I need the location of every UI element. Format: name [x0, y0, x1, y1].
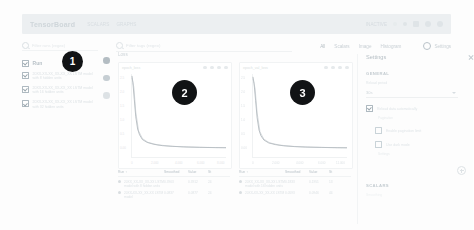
- run-checkbox[interactable]: [22, 100, 29, 107]
- pagination-label: Pagination: [378, 116, 474, 120]
- tab-histogram[interactable]: Histogram: [380, 44, 401, 49]
- x-tick-label: 2.000: [272, 161, 280, 165]
- header-tabs: SCALARS GRAPHS: [87, 22, 136, 27]
- reload-period-value: 30s: [366, 90, 372, 95]
- dark-mode-checkbox[interactable]: [375, 141, 382, 148]
- add-icon-bar-v: [461, 169, 462, 173]
- run-checkbox[interactable]: [22, 72, 29, 79]
- runs-icon[interactable]: [103, 57, 110, 64]
- settings-section-scalars: SCALARS: [366, 183, 474, 188]
- settings-header: Settings: [366, 54, 474, 60]
- x-tick-label: 0: [252, 161, 254, 165]
- account-icon[interactable]: [437, 21, 443, 27]
- column-header-run[interactable]: Run ↑: [118, 170, 164, 174]
- y-tick-label: 2.5: [241, 76, 245, 80]
- close-icon[interactable]: [468, 54, 474, 60]
- settings-title: Settings: [366, 54, 386, 60]
- more-icon[interactable]: [224, 66, 228, 70]
- tags-icon[interactable]: [103, 75, 110, 82]
- series-color-swatch: [239, 180, 242, 183]
- column-header-step[interactable]: St: [329, 170, 343, 174]
- chart-card-epoch-val-loss: epoch_val_loss 2.5 2.0 1.5 1.0 0.5 0.00 …: [239, 62, 353, 169]
- run-checkbox[interactable]: [22, 86, 29, 93]
- x-tick-label: 4.000: [175, 161, 183, 165]
- header-inactive-label: INACTIVE: [366, 22, 387, 27]
- caret-down-icon[interactable]: [393, 22, 397, 26]
- reload-auto-label: Reload data automatically: [377, 107, 417, 111]
- table-row[interactable]: 20XX-XX-XX_XX-XX LSTM model 0.0837 0.087…: [118, 188, 230, 199]
- pin-icon[interactable]: [210, 66, 214, 70]
- table-cell-run: 20XX_XX-XX_XX-XX LSTM model with 16 hidd…: [239, 180, 285, 188]
- x-axis: [131, 157, 226, 158]
- header-tab-graphs[interactable]: GRAPHS: [116, 22, 136, 27]
- charts-section-title: Loss: [118, 52, 351, 57]
- reload-period-select[interactable]: 30s: [366, 88, 458, 98]
- table-cell-run-label: 20XX_XX-XX_XX-XX LSTM model with 16 hidd…: [245, 180, 285, 188]
- table-cell-value: 0.0877: [188, 191, 208, 195]
- column-header-smoothed[interactable]: Smoothed: [164, 170, 188, 174]
- column-header-value[interactable]: Value: [188, 170, 208, 174]
- table-cell-value: 0.3912: [188, 180, 208, 184]
- tag-filter-input[interactable]: Filter tags (regex): [116, 40, 292, 52]
- column-header-value[interactable]: Value: [309, 170, 329, 174]
- settings-note: Settings: [378, 152, 474, 156]
- y-tick-label: 1.0: [120, 118, 124, 122]
- chart-data-table: Run ↑ Smoothed Value St 20XX_XX-XX_XX-XX…: [118, 170, 230, 199]
- column-header-smoothed[interactable]: Smoothed: [285, 170, 309, 174]
- column-header-run[interactable]: Run ↑: [239, 170, 285, 174]
- column-header-step[interactable]: St: [208, 170, 222, 174]
- y-tick-label: 0.5: [120, 132, 124, 136]
- pagination-checkbox-row[interactable]: Enable pagination limit: [375, 127, 474, 134]
- tab-all[interactable]: All: [320, 44, 325, 49]
- chart-card-header: epoch_loss: [119, 63, 231, 72]
- pin-icon[interactable]: [331, 66, 335, 70]
- app-header: TensorBoard SCALARS GRAPHS INACTIVE: [22, 14, 451, 34]
- pagination-checkbox[interactable]: [375, 127, 382, 134]
- table-row[interactable]: 20XX-XX-XX_XX-XX LSTM 0.0593 0.0946 44: [239, 188, 351, 195]
- settings-button[interactable]: Settings: [423, 42, 451, 50]
- reload-auto-checkbox[interactable]: [366, 105, 373, 112]
- table-cell-run-label: 20XX-XX-XX_XX-XX LSTM: [245, 191, 284, 195]
- dark-mode-checkbox-row[interactable]: Use dark mode: [375, 141, 474, 148]
- x-tick-label: 8.000: [217, 161, 225, 165]
- table-cell-value: 0.0946: [309, 191, 329, 195]
- runs-sidebar: Filter runs (regex) Run 20XX-XX-XX_XX-XX…: [22, 40, 98, 215]
- annotation-badge-1: 1: [62, 51, 83, 72]
- expand-icon[interactable]: [324, 66, 328, 70]
- x-tick-label: 2.000: [151, 161, 159, 165]
- select-all-runs-checkbox[interactable]: [22, 60, 29, 67]
- table-row[interactable]: 20XX_XX-XX_XX-XX LSTM model with 16 hidd…: [239, 177, 351, 188]
- table-cell-smoothed: 0.0837: [164, 191, 188, 195]
- reload-icon[interactable]: [403, 22, 407, 26]
- add-icon[interactable]: [457, 166, 466, 175]
- app-brand: TensorBoard: [30, 21, 75, 28]
- series-color-swatch: [118, 191, 121, 194]
- header-actions: INACTIVE: [366, 21, 443, 27]
- table-cell-smoothed: 0.1833: [285, 180, 309, 184]
- tag-filter-placeholder: Filter tags (regex): [126, 43, 160, 48]
- header-tab-scalars[interactable]: SCALARS: [87, 22, 109, 27]
- run-filter-input[interactable]: Filter runs (regex): [22, 40, 98, 51]
- more-icon[interactable]: [345, 66, 349, 70]
- y-tick-label: 0.00: [120, 146, 126, 150]
- expand-icon[interactable]: [203, 66, 207, 70]
- run-list-item[interactable]: 20XX-XX-XX_XX-XX_XX LSTM model with 8 hi…: [22, 72, 98, 81]
- run-list-item[interactable]: 20XX-XX-XX_XX-XX_XX LSTM model with 32 h…: [22, 100, 98, 109]
- run-label: 20XX-XX-XX_XX-XX_XX LSTM model with 16 h…: [33, 86, 95, 95]
- chart-card-header: epoch_val_loss: [240, 63, 352, 72]
- reload-auto-checkbox-row[interactable]: Reload data automatically: [366, 105, 474, 112]
- table-cell-run: 20XX_XX-XX_XX-XX LSTM model with 8 hidde…: [118, 180, 164, 188]
- table-row[interactable]: 20XX_XX-XX_XX-XX LSTM model with 8 hidde…: [118, 177, 230, 188]
- info-icon[interactable]: [103, 92, 110, 99]
- download-icon[interactable]: [217, 66, 221, 70]
- tab-image[interactable]: Image: [359, 44, 372, 49]
- run-list-item[interactable]: 20XX-XX-XX_XX-XX_XX LSTM model with 16 h…: [22, 86, 98, 95]
- tab-scalars[interactable]: Scalars: [334, 44, 349, 49]
- annotation-badge-3: 3: [290, 80, 315, 105]
- reload-period-label: Reload period: [366, 81, 474, 85]
- download-icon[interactable]: [338, 66, 342, 70]
- settings-icon[interactable]: [425, 21, 431, 27]
- download-icon[interactable]: [413, 21, 419, 27]
- x-tick-label: 11.000: [336, 161, 345, 165]
- table-cell-step: 24: [208, 191, 222, 195]
